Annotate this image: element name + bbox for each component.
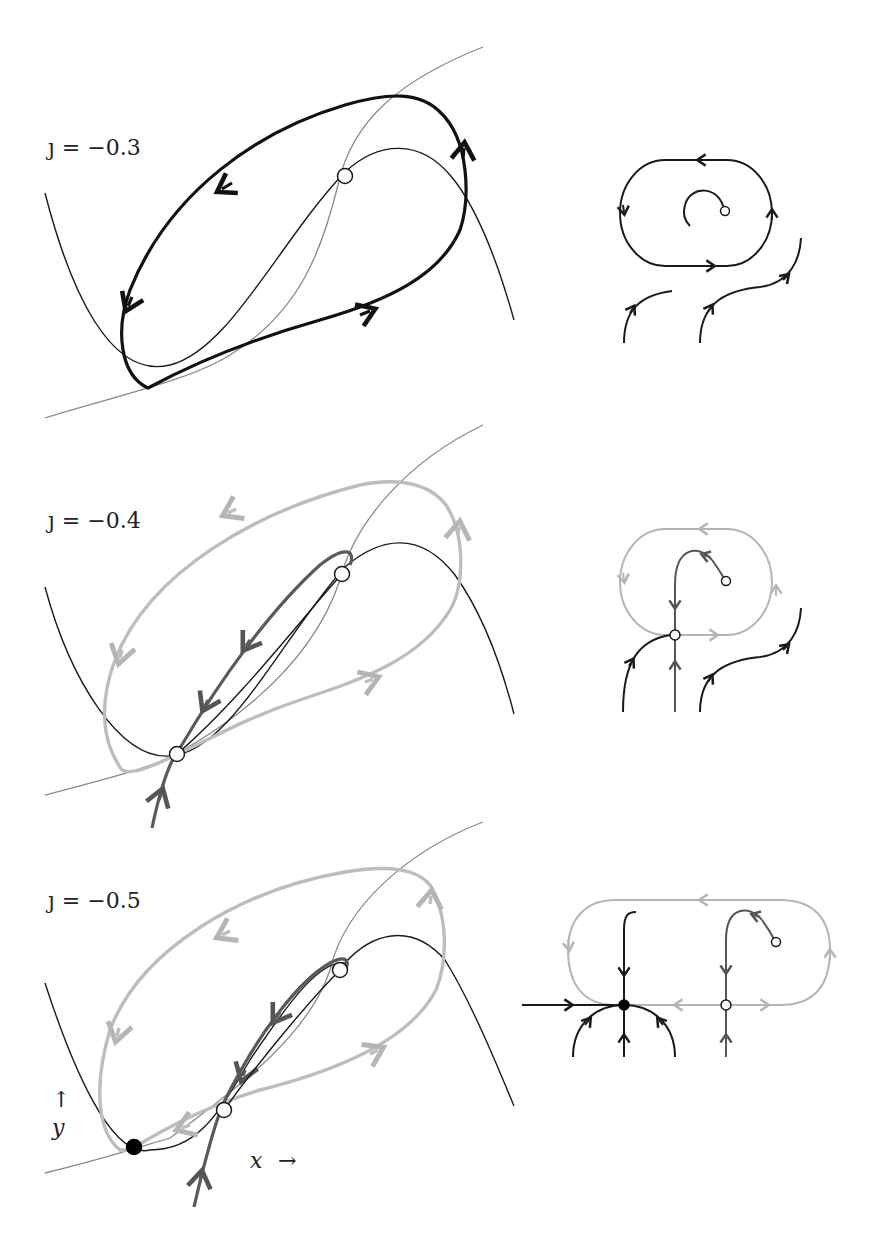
y-nullcline xyxy=(45,47,483,418)
arrow-icon xyxy=(463,148,464,158)
saddle-equilibrium xyxy=(170,747,185,762)
y-nullcline xyxy=(45,425,483,795)
stable-equilibrium xyxy=(127,1140,142,1155)
arrow-icon xyxy=(120,650,122,658)
panel-top: ȷ = −0.3 xyxy=(45,47,801,418)
saddle-equilibrium xyxy=(217,1103,232,1118)
arrow-icon xyxy=(222,931,230,935)
arrow-icon xyxy=(365,679,373,682)
stable-manifold xyxy=(152,552,352,828)
schematic-bottom xyxy=(522,900,830,1057)
x-axis-label: x xyxy=(250,1148,263,1173)
panel-bottom: ȷ = −0.5 ↑ y x → xyxy=(45,822,830,1207)
heteroclinic-connection xyxy=(224,970,340,1110)
arrow-icon xyxy=(458,527,459,535)
stable-manifold xyxy=(194,959,347,1207)
phase-portrait-figure: ȷ = −0.3 ȷ = −0.4 xyxy=(0,0,876,1246)
arrow-icon xyxy=(228,509,236,513)
y-axis-label: y xyxy=(51,1115,65,1140)
panel-bottom-label: ȷ = −0.5 xyxy=(45,888,141,913)
unstable-limit-cycle xyxy=(100,868,445,1150)
panel-top-label: ȷ = −0.3 xyxy=(45,135,141,160)
arrow-icon xyxy=(117,1028,119,1036)
schematic-middle xyxy=(620,529,801,712)
arrow-icon xyxy=(243,1070,245,1076)
x-axis-arrow: → xyxy=(278,1148,296,1173)
y-axis-arrow: ↑ xyxy=(52,1087,70,1112)
arrow-icon xyxy=(200,1176,201,1182)
x-nullcline xyxy=(45,543,514,756)
arrow-icon xyxy=(222,183,232,189)
stable-limit-cycle xyxy=(122,96,466,388)
panel-middle: ȷ = −0.4 xyxy=(45,425,801,828)
unstable-equilibrium xyxy=(335,567,350,582)
panel-middle-label: ȷ = −0.4 xyxy=(45,508,141,533)
arrow-icon xyxy=(430,896,431,904)
arrow-icon xyxy=(182,1125,190,1128)
schematic-top xyxy=(620,160,801,343)
unstable-equilibrium xyxy=(338,169,353,184)
unstable-equilibrium xyxy=(333,963,348,978)
arrow-icon xyxy=(360,311,370,315)
arrow-icon xyxy=(159,794,161,800)
unstable-limit-cycle xyxy=(105,482,461,772)
